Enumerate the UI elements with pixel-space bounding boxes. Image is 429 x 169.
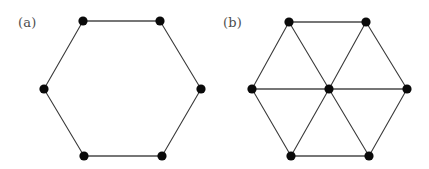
graph-vertex <box>196 84 205 93</box>
graph-vertex <box>78 16 87 25</box>
graph-vertex <box>286 151 295 160</box>
graph-edge <box>252 22 289 89</box>
panel-a: (a) <box>18 15 206 161</box>
graph-vertex <box>364 151 373 160</box>
graph-vertex <box>157 151 166 160</box>
graph-edge <box>291 89 329 156</box>
graph-edge <box>369 89 407 156</box>
graph-edge <box>329 22 366 89</box>
panel-label: (a) <box>18 15 37 30</box>
graph-edge <box>289 22 329 89</box>
graph-edge <box>366 22 407 89</box>
panel-b: (b) <box>223 15 412 161</box>
graph-vertex <box>284 17 293 26</box>
graph-edge <box>329 89 369 156</box>
graph-vertex <box>402 84 411 93</box>
panel-label: (b) <box>223 15 242 30</box>
graph-edge <box>162 89 201 156</box>
graph-edge <box>44 89 84 156</box>
graph-vertex <box>79 151 88 160</box>
figure-container: (a) (b) <box>0 0 429 169</box>
graph-edge <box>252 89 291 156</box>
graph-vertex <box>39 84 48 93</box>
graph-vertex <box>247 84 256 93</box>
graph-edge <box>160 21 201 89</box>
graph-edge <box>44 21 83 89</box>
graph-vertex <box>155 16 164 25</box>
graph-vertex <box>324 84 333 93</box>
graph-vertex <box>361 17 370 26</box>
graph-figure-svg: (a) (b) <box>0 0 429 169</box>
